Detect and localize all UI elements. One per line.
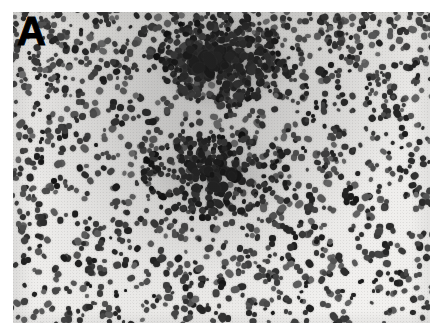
stained-nucleus (211, 318, 214, 321)
stained-nucleus (127, 161, 134, 168)
stained-nucleus (413, 145, 421, 153)
stained-nucleus (339, 266, 350, 277)
stained-nucleus (322, 124, 327, 129)
stained-nucleus (73, 12, 81, 14)
stained-nucleus (80, 92, 85, 97)
stained-nucleus (398, 178, 402, 182)
stained-nucleus (31, 165, 37, 170)
stained-nucleus (20, 191, 26, 197)
stained-nucleus (282, 164, 291, 172)
stained-nucleus (85, 294, 90, 298)
stained-nucleus (69, 143, 78, 152)
stained-nucleus (135, 182, 138, 186)
stained-nucleus (197, 237, 202, 242)
stained-nucleus (134, 156, 138, 160)
stained-nucleus (16, 132, 22, 138)
stained-nucleus (165, 287, 171, 293)
stained-nucleus (414, 273, 418, 277)
stained-nucleus (124, 289, 128, 293)
stained-nucleus (363, 222, 372, 230)
stained-nucleus (32, 292, 38, 298)
stained-nucleus (25, 83, 32, 90)
stained-nucleus (318, 46, 323, 51)
stained-nucleus (326, 289, 331, 294)
stained-nucleus (349, 22, 355, 27)
stained-nucleus (191, 210, 196, 214)
stained-nucleus (286, 56, 291, 60)
stained-nucleus (269, 241, 275, 247)
stained-nucleus (218, 284, 224, 290)
figure-panel: A (0, 0, 442, 329)
stained-nucleus (126, 273, 136, 282)
stained-nucleus (348, 13, 358, 23)
stained-nucleus (13, 305, 14, 311)
stained-nucleus (60, 16, 66, 22)
stained-nucleus (314, 250, 320, 256)
stained-nucleus (241, 199, 246, 204)
stained-nucleus (27, 247, 31, 251)
stained-nucleus (119, 86, 128, 95)
stained-nucleus (419, 55, 423, 60)
stained-nucleus (158, 130, 163, 135)
stained-nucleus (429, 68, 430, 74)
stained-nucleus (213, 158, 221, 165)
stained-nucleus (172, 231, 178, 237)
stained-nucleus (62, 29, 66, 33)
stained-nucleus (142, 219, 148, 226)
stained-nucleus (406, 276, 412, 282)
stained-nucleus (37, 322, 45, 323)
stained-nucleus (94, 143, 98, 147)
stained-nucleus (409, 310, 416, 316)
stained-nucleus (206, 278, 209, 282)
stained-nucleus (413, 122, 419, 127)
micrograph-image (13, 12, 430, 323)
stained-nucleus (39, 308, 45, 315)
stained-nucleus (344, 299, 352, 307)
stained-nucleus (418, 87, 426, 95)
stained-nucleus (402, 131, 408, 137)
stained-nucleus (204, 243, 215, 253)
stained-nucleus (147, 129, 152, 134)
stained-nucleus (299, 290, 303, 294)
stained-nucleus (298, 154, 304, 161)
stained-nucleus (358, 280, 361, 284)
stained-nucleus (66, 306, 71, 311)
stained-nucleus (54, 52, 59, 57)
stained-nucleus (390, 140, 395, 145)
stained-nucleus (368, 41, 376, 49)
stained-nucleus (187, 292, 193, 298)
stained-nucleus (111, 155, 116, 161)
stained-nucleus (288, 311, 292, 315)
stained-nucleus (404, 29, 409, 35)
stained-nucleus (365, 127, 369, 131)
stained-nucleus (57, 174, 62, 180)
stained-nucleus (190, 227, 196, 233)
stained-nucleus (323, 173, 329, 179)
stained-nucleus (355, 236, 360, 241)
stained-nucleus (121, 319, 125, 323)
stained-nucleus (226, 296, 232, 302)
stained-nucleus (76, 99, 82, 105)
stained-nucleus (127, 244, 132, 250)
stained-nucleus (407, 15, 412, 21)
stained-nucleus (127, 320, 136, 323)
stained-nucleus (255, 12, 262, 18)
stained-nucleus (94, 86, 104, 96)
stained-nucleus (98, 226, 103, 231)
stained-nucleus (13, 261, 19, 269)
stained-nucleus (150, 302, 158, 310)
stained-nucleus (385, 270, 391, 275)
stained-nucleus (13, 53, 18, 59)
stained-nucleus (14, 313, 21, 320)
stained-nucleus (385, 154, 392, 161)
stained-nucleus (314, 105, 319, 110)
stained-nucleus (31, 67, 37, 72)
stained-nucleus (388, 43, 396, 51)
stained-nucleus (136, 114, 141, 119)
stained-nucleus (309, 17, 314, 22)
stained-nucleus (412, 63, 417, 68)
stained-nucleus (416, 263, 423, 270)
stained-nucleus (180, 121, 185, 126)
stained-nucleus (51, 86, 54, 90)
stained-nucleus (262, 174, 267, 178)
